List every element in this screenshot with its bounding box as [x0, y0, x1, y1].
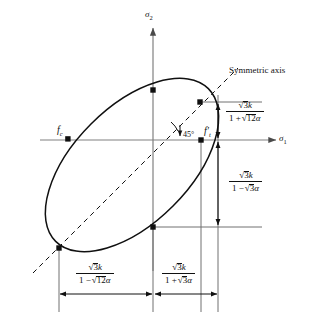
- point-lower-left-vertex: [56, 245, 61, 250]
- callout-bottom-right-numerator: √3k: [229, 170, 262, 181]
- point-compressive-intercept: [65, 136, 70, 141]
- callout-bottom-left-denominator: 1 −√12α: [76, 273, 114, 285]
- point-bottom-tangent: [150, 224, 155, 229]
- tensile-intercept-label: f′t: [204, 126, 211, 139]
- callout-top-right: √3k 1 +√12α: [226, 100, 264, 123]
- failure-ellipse: [15, 48, 250, 283]
- sigma2-axis-label: σ2: [145, 10, 153, 21]
- symmetric-axis-label: Symmetric axis: [229, 66, 285, 75]
- point-upper-right-tangent: [197, 99, 202, 104]
- callout-top-right-denominator: 1 +√12α: [226, 111, 264, 123]
- angle-arc: [171, 122, 178, 131]
- point-tensile-intercept: [198, 137, 203, 142]
- callout-bottom-right: √3k 1 −√3α: [229, 170, 262, 193]
- callout-bottom-center: √3k 1 +√3α: [162, 262, 195, 285]
- callout-bottom-right-denominator: 1 −√3α: [229, 181, 262, 193]
- diagram-svg: [0, 0, 318, 323]
- marked-points: [56, 87, 203, 250]
- callout-bottom-left-numerator: √3k: [76, 262, 114, 273]
- point-top-vertex: [150, 87, 155, 92]
- sigma1-axis-label: σ1: [279, 134, 287, 145]
- angle-label: 45°: [183, 131, 194, 139]
- symmetric-axis-line: [33, 68, 238, 273]
- callout-bottom-center-numerator: √3k: [162, 262, 195, 273]
- compressive-intercept-label: fc: [57, 125, 63, 138]
- callout-top-right-numerator: √3k: [226, 100, 264, 111]
- callout-bottom-left: √3k 1 −√12α: [76, 262, 114, 285]
- callout-bottom-center-denominator: 1 +√3α: [162, 273, 195, 285]
- figure-canvas: σ1 σ2 fc f′t Symmetric axis 45° √3k 1 +√…: [0, 0, 318, 323]
